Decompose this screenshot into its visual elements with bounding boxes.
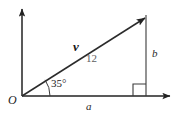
right-angle-marker xyxy=(133,84,146,96)
vector-diagram-figure: O v 12 35° a b xyxy=(0,0,181,125)
angle-arc xyxy=(45,80,50,96)
origin-label: O xyxy=(8,94,17,106)
angle-measure-label: 35° xyxy=(51,78,66,89)
vector-magnitude-label: 12 xyxy=(86,53,97,64)
vector-name-label: v xyxy=(73,40,79,53)
vector-arrow xyxy=(22,18,145,96)
horizontal-component-label: a xyxy=(86,101,92,112)
vertical-component-label: b xyxy=(152,48,158,59)
